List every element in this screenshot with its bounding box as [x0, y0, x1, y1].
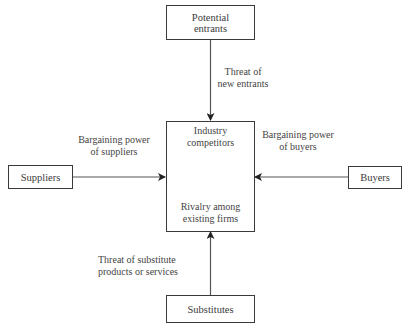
suppliers-label: Suppliers: [21, 172, 61, 183]
rivalry-label-line2: existing firms: [166, 213, 255, 225]
threat-new-entrants-line1: Threat of: [214, 66, 272, 78]
supplier-power-label: Bargaining power of suppliers: [72, 134, 156, 158]
supplier-power-line1: Bargaining power: [72, 134, 156, 146]
threat-new-entrants-label: Threat of new entrants: [214, 66, 272, 90]
threat-new-entrants-line2: new entrants: [214, 78, 272, 90]
industry-label-line1: Industry: [166, 125, 255, 137]
industry-label-line2: competitors: [166, 137, 255, 149]
industry-competitors-label: Industry competitors: [166, 125, 255, 149]
threat-substitutes-label: Threat of substitute products or service…: [98, 254, 182, 278]
supplier-power-line2: of suppliers: [72, 146, 156, 158]
buyer-power-label: Bargaining power of buyers: [258, 129, 338, 153]
buyers-label: Buyers: [360, 172, 390, 183]
potential-entrants-box: Potential entrants: [166, 5, 255, 40]
threat-substitutes-line1: Threat of substitute: [98, 254, 182, 266]
potential-entrants-label-line2: entrants: [192, 23, 229, 34]
buyer-power-line1: Bargaining power: [258, 129, 338, 141]
five-forces-diagram: Potential entrants Threat of new entrant…: [0, 0, 412, 331]
buyers-box: Buyers: [348, 166, 402, 189]
potential-entrants-label-line1: Potential: [192, 12, 229, 23]
buyer-power-line2: of buyers: [258, 141, 338, 153]
suppliers-box: Suppliers: [8, 165, 73, 189]
threat-substitutes-line2: products or services: [98, 266, 182, 278]
rivalry-label-line1: Rivalry among: [166, 201, 255, 213]
rivalry-label: Rivalry among existing firms: [166, 201, 255, 225]
substitutes-box: Substitutes: [166, 295, 255, 323]
substitutes-label: Substitutes: [187, 304, 233, 315]
